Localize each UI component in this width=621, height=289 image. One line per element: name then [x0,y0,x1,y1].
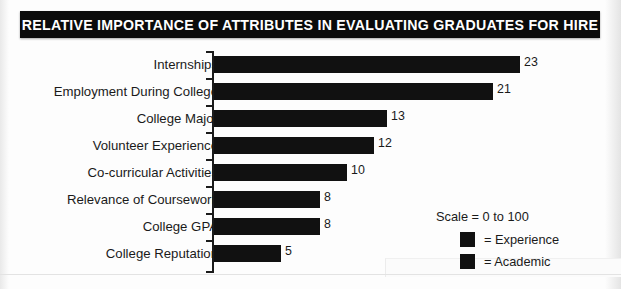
bar-value-label: 8 [324,216,331,233]
bar-row: Volunteer Experience12 [0,132,621,159]
category-label: College Reputation [106,240,218,267]
legend-entry: = Experience [436,232,606,247]
bar-value-label: 12 [378,135,392,152]
scan-edge-bottom [0,274,621,275]
bar [214,191,320,208]
axis-tick [206,240,214,242]
axis-tick [206,78,214,80]
legend-entry: = Academic [436,254,606,269]
chart-page: RELATIVE IMPORTANCE OF ATTRIBUTES IN EVA… [0,0,621,289]
bar-row: Employment During College21 [0,78,621,105]
chart-title: RELATIVE IMPORTANCE OF ATTRIBUTES IN EVA… [22,17,598,33]
bar-value-label: 8 [324,189,331,206]
category-label: Internships [153,51,218,78]
bar-chart: Internships23Employment During College21… [0,46,621,271]
category-label: College GPA [143,213,218,240]
bar-value-label: 23 [524,54,538,71]
chart-legend: Scale = 0 to 100 = Experience= Academic [436,209,606,269]
category-label: College Major [137,105,218,132]
legend-entries: = Experience= Academic [436,232,606,269]
axis-tick [206,132,214,134]
legend-swatch-experience [460,232,475,247]
chart-title-banner: RELATIVE IMPORTANCE OF ATTRIBUTES IN EVA… [20,11,600,38]
legend-scale-note: Scale = 0 to 100 [436,209,606,224]
axis-tick [206,51,214,53]
axis-tick [206,186,214,188]
bar-value-label: 5 [285,243,292,260]
bar-value-label: 21 [497,81,511,98]
legend-swatch-academic [460,254,475,269]
bar [214,56,520,73]
category-label: Relevance of Coursework [67,186,218,213]
bar-value-label: 10 [351,162,365,179]
legend-entry-label: = Experience [484,232,559,247]
axis-tick [206,105,214,107]
category-label: Volunteer Experience [93,132,218,159]
bar [214,218,320,235]
bar-row: College Major13 [0,105,621,132]
bar [214,137,374,154]
category-label: Employment During College [54,78,218,105]
bar [214,83,493,100]
bar-row: Co-curricular Activities10 [0,159,621,186]
bar [214,164,347,181]
y-axis-cap-bottom [206,271,214,273]
legend-entry-label: = Academic [484,254,551,269]
bar [214,245,281,262]
axis-tick [206,159,214,161]
bar-row: Internships23 [0,51,621,78]
bar-value-label: 13 [391,108,405,125]
axis-tick [206,213,214,215]
bar [214,110,387,127]
category-label: Co-curricular Activities [88,159,218,186]
